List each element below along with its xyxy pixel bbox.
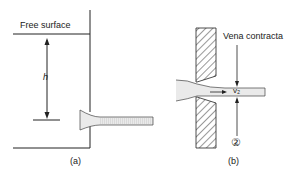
free-surface-label: Free surface bbox=[20, 20, 71, 30]
caption-b: (b) bbox=[228, 156, 239, 166]
vena-contracta-label: Vena contracta bbox=[223, 31, 283, 41]
orifice-figure-b bbox=[176, 28, 265, 148]
head-label: h bbox=[43, 72, 48, 82]
section-2-label: ② bbox=[231, 136, 241, 149]
velocity-label: v₂ bbox=[233, 86, 240, 95]
tank-figure-a bbox=[13, 10, 153, 148]
caption-a: (a) bbox=[70, 156, 81, 166]
